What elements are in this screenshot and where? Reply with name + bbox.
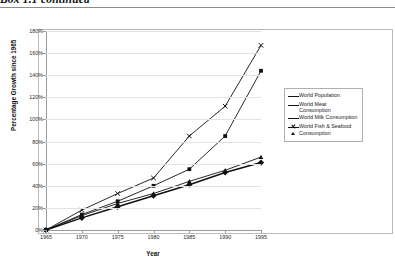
legend-marker-cross-icon <box>288 124 299 131</box>
y-tick-label: 160% <box>29 50 43 56</box>
series-world-population <box>43 159 264 233</box>
y-tick-mark <box>43 97 46 98</box>
y-tick-mark <box>43 75 46 76</box>
y-tick-label: 180% <box>29 28 43 34</box>
legend-label: World Milk Consumption <box>299 114 357 120</box>
x-tick-mark <box>82 230 83 233</box>
gridline <box>46 186 261 187</box>
legend-item: World Population <box>288 92 359 100</box>
y-tick-label: 140% <box>29 72 43 78</box>
gridline <box>46 75 261 76</box>
legend-label: World Fish & Seafood Consumption <box>299 123 359 135</box>
x-tick-label: 1975 <box>112 234 124 240</box>
y-tick-mark <box>43 164 46 165</box>
gridline <box>46 142 261 143</box>
y-tick-mark <box>43 31 46 32</box>
y-tick-label: 0% <box>35 227 43 233</box>
x-tick-mark <box>118 230 119 233</box>
x-tick-label: 1970 <box>76 234 88 240</box>
x-tick-mark <box>189 230 190 233</box>
box-caption: Box 1.1 continued <box>0 0 90 5</box>
legend-item: World Meat Consumption <box>288 101 359 113</box>
x-tick-mark <box>261 230 262 233</box>
legend-label: World Population <box>299 92 340 98</box>
gridline <box>46 164 261 165</box>
x-tick-label: 1990 <box>219 234 231 240</box>
x-tick-mark <box>225 230 226 233</box>
x-tick-label: 1965 <box>40 234 52 240</box>
y-tick-label: 40% <box>32 183 43 189</box>
y-tick-label: 120% <box>29 94 43 100</box>
legend-marker-triangle-icon <box>288 115 299 122</box>
y-tick-mark <box>43 119 46 120</box>
gridline <box>46 208 261 209</box>
legend-marker-diamond-icon <box>288 93 299 100</box>
gridline <box>46 31 261 32</box>
y-tick-mark <box>43 186 46 187</box>
y-tick-label: 20% <box>32 205 43 211</box>
header-divider <box>0 7 395 8</box>
x-tick-mark <box>154 230 155 233</box>
x-tick-mark <box>46 230 47 233</box>
y-tick-mark <box>43 142 46 143</box>
y-axis-title: Percentage Growth since 1965 <box>10 40 17 131</box>
x-tick-label: 1995 <box>255 234 267 240</box>
legend-marker-square-icon <box>288 102 299 109</box>
gridline <box>46 119 261 120</box>
x-tick-label: 1980 <box>148 234 160 240</box>
series-world-fish-seafood-consumption <box>44 43 264 232</box>
y-tick-mark <box>43 53 46 54</box>
gridline <box>46 97 261 98</box>
y-tick-label: 60% <box>32 161 43 167</box>
chart-legend: World PopulationWorld Meat ConsumptionWo… <box>284 88 363 142</box>
legend-label: World Meat Consumption <box>299 101 359 113</box>
legend-item: World Fish & Seafood Consumption <box>288 123 359 135</box>
plot-area: 0%20%40%60%80%100%120%140%160%180%196519… <box>46 31 261 230</box>
y-tick-label: 80% <box>32 139 43 145</box>
box-header: Box 1.1 continued <box>0 0 395 12</box>
x-axis-title: Year <box>146 250 159 257</box>
x-tick-label: 1985 <box>183 234 195 240</box>
series-lines <box>46 31 261 230</box>
gridline <box>46 53 261 54</box>
y-tick-label: 100% <box>29 116 43 122</box>
y-tick-mark <box>43 208 46 209</box>
legend-item: World Milk Consumption <box>288 114 359 122</box>
chart-page: Box 1.1 continued 0%20%40%60%80%100%120%… <box>0 0 395 262</box>
